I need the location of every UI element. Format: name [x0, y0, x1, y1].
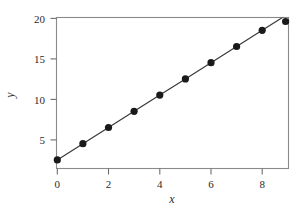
- x-tick-label-0: 0: [55, 178, 61, 190]
- scatter-line-plot: 20 15 10 5 0 2 4 6 8 x y: [0, 0, 306, 211]
- x-tick-label-2: 2: [106, 178, 112, 190]
- y-axis-title: y: [3, 92, 17, 99]
- x-axis-title: x: [168, 192, 175, 206]
- data-points: [54, 18, 290, 164]
- y-axis-ticks: [51, 18, 57, 139]
- data-point: [131, 108, 138, 115]
- data-point: [259, 27, 266, 34]
- data-point: [156, 92, 163, 99]
- x-axis-ticks: [57, 169, 262, 175]
- y-tick-label-20: 20: [34, 13, 46, 25]
- data-point: [182, 75, 189, 82]
- y-tick-label-15: 15: [34, 53, 46, 65]
- chart-figure: 20 15 10 5 0 2 4 6 8 x y: [0, 0, 306, 211]
- x-tick-label-6: 6: [208, 178, 214, 190]
- data-point: [233, 43, 240, 50]
- y-tick-label-10: 10: [34, 94, 46, 106]
- data-point: [79, 140, 86, 147]
- plot-frame: [57, 18, 289, 169]
- y-tick-label-5: 5: [40, 134, 46, 146]
- data-point: [207, 59, 214, 66]
- x-tick-label-8: 8: [259, 178, 265, 190]
- data-point: [282, 18, 289, 25]
- data-point: [54, 156, 61, 163]
- x-tick-label-4: 4: [157, 178, 163, 190]
- data-point: [105, 124, 112, 131]
- data-line: [57, 14, 287, 160]
